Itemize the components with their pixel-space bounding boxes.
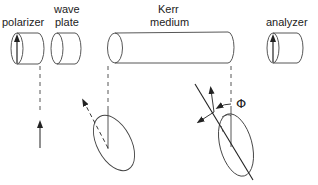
wave-plate-cylinder xyxy=(51,33,81,64)
wave-plate-label-line2: plate xyxy=(55,16,79,28)
kerr-label-line2: medium xyxy=(150,16,189,28)
analyzer-label: analyzer xyxy=(266,16,308,28)
polarizer-cylinder xyxy=(11,33,44,64)
rotated-polarization xyxy=(195,66,260,180)
elliptical-polarization xyxy=(84,66,143,177)
kerr-medium-cylinder xyxy=(108,32,235,63)
phi-angle-label: Φ xyxy=(236,96,246,111)
kerr-label-line1: Kerr xyxy=(158,3,179,15)
wave-plate-label-line1: wave xyxy=(54,3,80,15)
polarizer-label: polarizer xyxy=(2,16,44,28)
analyzer-cylinder xyxy=(267,33,303,63)
